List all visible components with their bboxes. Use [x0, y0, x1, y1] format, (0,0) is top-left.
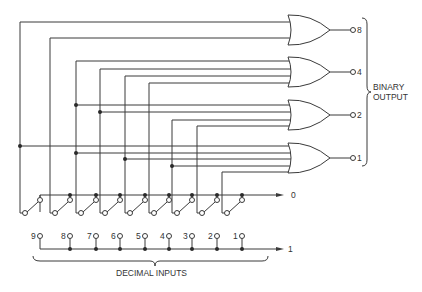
bus-one-junction [167, 247, 171, 251]
or-gate-body [288, 143, 330, 173]
switch-4: 4 [149, 193, 172, 251]
switch-lever [229, 202, 240, 212]
output-terminal [351, 113, 356, 118]
binary-output-brace [362, 18, 371, 166]
decimal-input-label-9: 9 [31, 231, 36, 241]
or-gates: 8421 [288, 15, 362, 173]
decimal-switches: 987654321 [20, 193, 245, 251]
bus-zero-junction [118, 193, 122, 197]
binary-output-label-line1: BINARY [373, 82, 405, 92]
output-label-4: 4 [357, 67, 362, 77]
switch-8: 8 [50, 193, 73, 251]
or-gate-2: 2 [288, 100, 362, 130]
decimal-input-label-6: 6 [111, 231, 116, 241]
decimal-input-label-8: 8 [61, 231, 66, 241]
decimal-input-terminal [240, 234, 245, 239]
bus-zero-junction [94, 193, 98, 197]
switch-contact [143, 198, 148, 203]
switch-lever [204, 202, 215, 212]
switch-7: 7 [76, 193, 99, 251]
switch-contact [190, 198, 195, 203]
bus-one-junction [215, 247, 219, 251]
decimal-inputs-brace [33, 256, 268, 266]
bus-zero-junction [215, 193, 219, 197]
switch-pivot [23, 211, 28, 216]
or-gate-body [288, 100, 330, 130]
bus-zero-junction [190, 193, 194, 197]
junction-dot [18, 144, 22, 148]
switch-pivot [225, 211, 230, 216]
switch-contact [215, 198, 220, 203]
junction-dot [98, 110, 102, 114]
switch-pivot [128, 211, 133, 216]
junction-dot [123, 157, 127, 161]
output-terminal [351, 28, 356, 33]
binary-output-label-line2: OUTPUT [373, 92, 408, 102]
junction-dot [74, 151, 78, 155]
switch-5: 5 [125, 193, 148, 251]
bus-one-junction [94, 247, 98, 251]
switch-lever [83, 202, 94, 212]
encoder-diagram: 8421 987654321 BINARY OUTPUT DECIMAL INP… [0, 0, 422, 292]
switch-lever [107, 202, 118, 212]
junction-dot [170, 164, 174, 168]
switch-lever [57, 202, 68, 212]
bus-one-label: 1 [288, 244, 293, 254]
switch-pivot [79, 211, 84, 216]
switch-pivot [103, 211, 108, 216]
switch-3: 3 [172, 193, 195, 251]
switch-contact [167, 198, 172, 203]
switch-6: 6 [100, 193, 123, 251]
decimal-input-terminal [94, 234, 99, 239]
decimal-inputs-label: DECIMAL INPUTS [116, 268, 187, 278]
switch-contact [118, 198, 123, 203]
switch-lever [179, 202, 190, 212]
wires [18, 18, 371, 266]
switch-2: 2 [197, 193, 220, 251]
bus-one-junction [240, 247, 244, 251]
decimal-input-terminal [118, 234, 123, 239]
decimal-input-label-1: 1 [233, 231, 238, 241]
decimal-input-label-3: 3 [183, 231, 188, 241]
decimal-input-label-2: 2 [208, 231, 213, 241]
output-label-2: 2 [357, 110, 362, 120]
switch-lever [156, 202, 167, 212]
decimal-input-terminal [143, 234, 148, 239]
output-terminal [351, 156, 356, 161]
decimal-input-label-5: 5 [136, 231, 141, 241]
switch-pivot [152, 211, 157, 216]
decimal-input-label-4: 4 [160, 231, 165, 241]
or-gate-body [288, 15, 330, 45]
decimal-input-terminal [190, 234, 195, 239]
or-gate-1: 1 [288, 143, 362, 173]
switch-9: 9 [20, 195, 43, 249]
bus-one-junction [118, 247, 122, 251]
bus-one-junction [190, 247, 194, 251]
bus-zero-junction [240, 193, 244, 197]
junction-dot [74, 103, 78, 107]
output-label-8: 8 [357, 25, 362, 35]
switch-pivot [175, 211, 180, 216]
switch-contact [94, 198, 99, 203]
bus-zero-arrow-icon [276, 193, 284, 197]
output-terminal [351, 70, 356, 75]
bus-one-arrow-icon [276, 247, 284, 251]
switch-contact [68, 198, 73, 203]
bus-zero-junction [143, 193, 147, 197]
or-gate-body [288, 57, 330, 87]
switch-pivot [53, 211, 58, 216]
decimal-input-terminal [68, 234, 73, 239]
or-gate-8: 8 [288, 15, 362, 45]
decimal-input-terminal [38, 234, 43, 239]
bus-one-junction [143, 247, 147, 251]
switch-lever [27, 202, 38, 212]
or-gate-4: 4 [288, 57, 362, 87]
bus-zero-junction [167, 193, 171, 197]
decimal-input-terminal [215, 234, 220, 239]
output-label-1: 1 [357, 153, 362, 163]
switch-contact [38, 198, 43, 203]
switch-pivot [200, 211, 205, 216]
switch-contact [240, 198, 245, 203]
bus-zero-junction [68, 193, 72, 197]
switch-1: 1 [222, 193, 245, 251]
